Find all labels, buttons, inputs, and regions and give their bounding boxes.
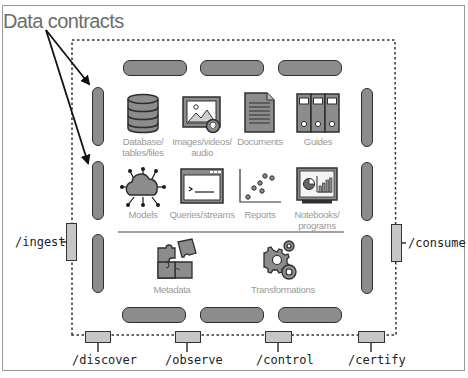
contract-bar-bottom-2 [200,307,264,323]
port-ingest [66,223,77,261]
cloud-network-icon [120,167,166,207]
image-icon [182,96,222,134]
contract-bar-bottom-3 [278,307,342,323]
label-metadata: Metadata [146,284,198,295]
label-notebooks: Notebooks/ programs [288,209,346,231]
label-queries: Queries/streams [168,209,236,220]
contract-bar-left-3 [92,234,104,293]
contract-bar-left-1 [92,87,104,146]
document-icon [244,92,276,134]
database-icon [126,93,160,133]
endpoint-consume: /consume [408,236,466,250]
contract-bar-left-2 [92,161,104,220]
endpoint-discover: /discover [72,353,137,367]
endpoint-ingest: /ingest [15,235,66,249]
label-models: Models [120,209,166,220]
port-discover [85,331,111,343]
gears-icon [263,240,299,280]
endpoint-certify: /certify [348,353,406,367]
endpoint-control: /control [256,353,314,367]
scatter-plot-icon [238,168,282,204]
label-database: Database/ tables/files [113,136,173,158]
label-transformations: Transformations [250,284,316,295]
contract-bar-top-3 [278,60,342,76]
contract-bar-top-2 [200,60,264,76]
contract-bar-right-3 [361,235,373,294]
port-certify [358,331,385,343]
label-images: Images/videos/ audio [170,136,234,158]
contract-bar-right-2 [361,162,373,221]
contract-bar-right-1 [361,88,373,147]
dashboard-icon [296,167,338,205]
label-reports: Reports [238,209,282,220]
port-observe [175,331,201,343]
arrow-to-contract-1 [46,30,89,84]
arrow-to-contract-2 [46,30,88,163]
terminal-icon [180,168,224,204]
label-guides: Guides [294,136,342,147]
port-consume [391,224,402,262]
port-control [265,331,292,343]
contract-bar-bottom-1 [122,307,186,323]
label-documents: Documents [234,136,286,147]
puzzle-icon [156,238,198,280]
contract-bar-top-1 [123,60,187,76]
binders-icon [296,93,340,133]
endpoint-observe: /observe [165,353,223,367]
